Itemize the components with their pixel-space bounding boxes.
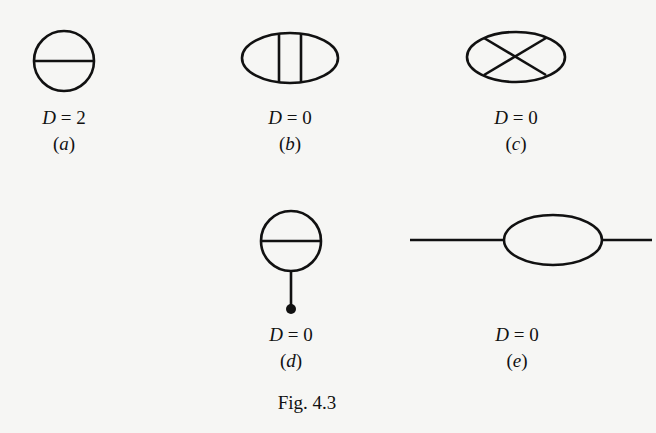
degree-variable: D — [494, 107, 508, 128]
diagram-a-degree-label: D = 2 — [42, 108, 85, 127]
figure-caption: Fig. 4.3 — [278, 392, 337, 414]
degree-value: = 2 — [56, 107, 86, 128]
diagram-a-graphic — [34, 31, 94, 91]
diagram-b-degree-label: D = 0 — [268, 108, 311, 127]
degree-value: = 0 — [508, 107, 538, 128]
tag-letter: d — [286, 350, 296, 371]
diagram-b-tag: (b) — [279, 134, 301, 153]
diagram-d-graphic — [261, 211, 321, 308]
degree-variable: D — [42, 107, 56, 128]
tag-letter: e — [513, 350, 521, 371]
diagram-e-graphic — [410, 215, 652, 265]
degree-variable: D — [268, 107, 282, 128]
degree-value: = 0 — [283, 324, 313, 345]
degree-variable: D — [495, 324, 509, 345]
diagram-c-graphic — [467, 32, 565, 82]
diagram-c-tag: (c) — [505, 134, 526, 153]
diagram-b-graphic — [242, 33, 338, 83]
tag-letter: a — [59, 133, 69, 154]
diagram-e-degree-label: D = 0 — [495, 325, 538, 344]
tag-letter: b — [285, 133, 295, 154]
diagram-d-degree-label: D = 0 — [269, 325, 312, 344]
diagram-a-tag: (a) — [53, 134, 75, 153]
degree-variable: D — [269, 324, 283, 345]
tag-letter: c — [512, 133, 520, 154]
vertex-dot-icon — [286, 304, 296, 314]
diagram-e-tag: (e) — [506, 351, 527, 370]
degree-value: = 0 — [509, 324, 539, 345]
diagram-c-degree-label: D = 0 — [494, 108, 537, 127]
feynman-diagrams — [0, 0, 656, 433]
degree-value: = 0 — [282, 107, 312, 128]
diagram-d-tag: (d) — [280, 351, 302, 370]
